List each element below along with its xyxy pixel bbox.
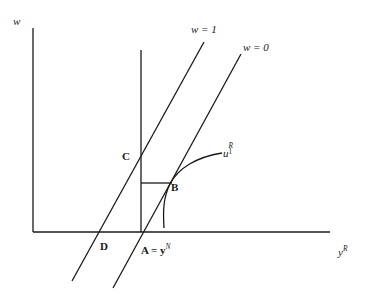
point-A-label-superscript: N — [166, 242, 171, 251]
point-C-label: C — [122, 151, 130, 162]
point-D-label: D — [100, 241, 108, 252]
economics-diagram: w yR w = 1 w = 0 uR1 C B D A = yN — [0, 0, 374, 295]
x-axis-label: yR — [338, 245, 347, 258]
indifference-curve-label-subscript: 1 — [229, 149, 233, 156]
x-axis-label-superscript: R — [343, 244, 348, 253]
wage-line-w1 — [72, 42, 204, 281]
wage-line-w1-label: w = 1 — [191, 24, 217, 35]
y-axis-label: w — [13, 16, 20, 27]
indifference-curve-label-indices: R1 — [229, 146, 235, 157]
indifference-curve-label: uR1 — [223, 146, 235, 159]
point-A-label: A = yN — [141, 243, 171, 256]
diagram-canvas — [0, 0, 374, 295]
point-B-label: B — [171, 182, 178, 193]
point-A-label-base: A = y — [141, 244, 166, 256]
wage-line-w0-label: w = 0 — [243, 42, 269, 53]
